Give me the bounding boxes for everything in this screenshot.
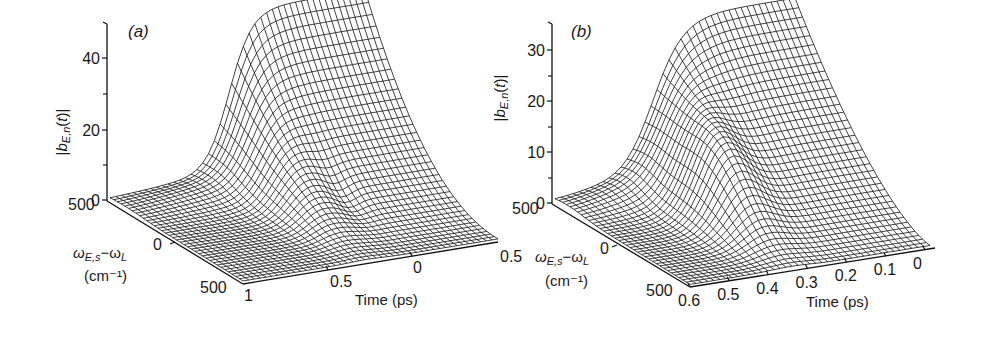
panel-a-label: (a)	[128, 22, 149, 41]
panel-a-freq-axis	[107, 201, 243, 284]
time-tick-label: 0.2	[835, 267, 857, 284]
panel-a-freq-unit: (cm⁻¹)	[84, 267, 127, 284]
panel-b-z-axis-label: |bE,n(t)|	[491, 75, 510, 122]
z-tick-label: 20	[527, 93, 545, 110]
panel-a-z-axis	[103, 22, 107, 201]
time-tick-label: 0.3	[796, 274, 818, 291]
panel-a-z-axis-label: |bE,n(t)|	[53, 109, 72, 156]
panel-b-z-axis	[548, 22, 552, 204]
panel-b-freq-tick-2: 500	[646, 282, 673, 299]
panel-b-freq-tick-1: 0	[600, 240, 609, 257]
figure: 02040 (a) |bE,n(t)| 500 0 500 ωE,s−ωL (c…	[0, 0, 987, 338]
panel-b-z-ticks: 0102030	[527, 42, 552, 212]
panel-b-freq-unit: (cm⁻¹)	[545, 272, 588, 289]
panel-a-time-tick-0: 1	[244, 287, 253, 304]
panel-a-freq-tick-0: 500	[68, 196, 95, 213]
z-tick-label: 40	[82, 50, 100, 67]
panel-b-freq-tick-0: 500	[512, 200, 539, 217]
time-tick-label: 0.4	[756, 280, 778, 297]
panel-b-wireframe-mesh	[555, 0, 930, 284]
panel-a-freq-label: ωE,s−ωL	[73, 244, 127, 263]
panel-a-freq-tick-2: 500	[200, 279, 227, 296]
z-tick-label: 10	[527, 144, 545, 161]
time-tick-label: 0.6	[678, 292, 700, 309]
panel-b-freq-label: ωE,s−ωL	[535, 248, 589, 267]
time-tick-label: 0.5	[717, 286, 739, 303]
panel-a-time-tick-2: 0	[413, 259, 422, 276]
panel-a-freq-tick-1: 0	[153, 236, 162, 253]
panel-b-time-label: Time (ps)	[806, 293, 869, 310]
panel-a-time-label: Time (ps)	[355, 291, 418, 308]
panel-b-surface-plot: 0102030 (b) |bE,n(t)| 500 0 500 ωE,s−ωL …	[491, 0, 935, 310]
panel-a-z-ticks: 02040	[82, 50, 107, 209]
z-tick-label: 30	[527, 42, 545, 59]
panel-a-time-tick-3: 0.5	[500, 248, 522, 265]
panel-a-time-tick-1: 0.5	[330, 273, 352, 290]
time-tick-label: 0.1	[874, 261, 896, 278]
panel-a-surface-plot: 02040 (a) |bE,n(t)| 500 0 500 ωE,s−ωL (c…	[53, 0, 522, 308]
z-tick-label: 20	[82, 122, 100, 139]
time-tick-label: 0	[913, 255, 922, 272]
panel-b-label: (b)	[571, 22, 592, 41]
